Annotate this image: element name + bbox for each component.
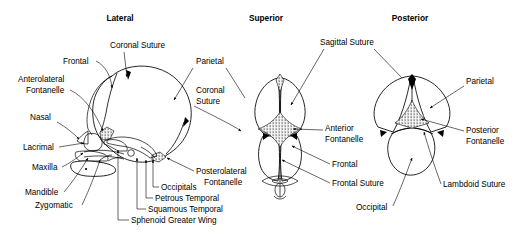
label-frontal-superior: Frontal bbox=[332, 160, 358, 169]
label-anterior-fontanelle-line1: Anterior bbox=[325, 124, 354, 133]
label-coronal-suture-2-line1: Coronal bbox=[196, 86, 225, 95]
label-nasal: Nasal bbox=[30, 113, 51, 122]
label-lambdoid-suture: Lambdoid Suture bbox=[443, 180, 506, 189]
label-squamous-temporal: Squamous Temporal bbox=[148, 205, 223, 214]
label-posterior-fontanelle-line2: Fontanelle bbox=[466, 137, 505, 146]
skull-views-diagram: Lateral Superior Posterior bbox=[0, 0, 520, 237]
label-occipital: Occipital bbox=[356, 203, 388, 212]
label-zygomatic: Zygomatic bbox=[35, 201, 73, 210]
label-coronal-suture-2-line2: Suture bbox=[196, 97, 221, 106]
lateral-skull-drawing bbox=[71, 66, 192, 176]
panel-title-posterior: Posterior bbox=[392, 13, 429, 23]
label-posterolateral-fontanelle-line2: Fontanelle bbox=[204, 178, 243, 187]
label-lacrimal: Lacrimal bbox=[23, 143, 54, 152]
label-parietal-posterior: Parietal bbox=[466, 77, 494, 86]
label-anterior-fontanelle-line2: Fontanelle bbox=[325, 135, 364, 144]
label-petrous-temporal: Petrous Temporal bbox=[155, 194, 219, 203]
label-posterolateral-fontanelle-line1: Posterolateral bbox=[196, 167, 247, 176]
label-frontal-suture: Frontal Suture bbox=[332, 179, 384, 188]
figure-canvas: Lateral Superior Posterior bbox=[0, 0, 520, 237]
label-maxilla: Maxilla bbox=[32, 163, 58, 172]
superior-skull-drawing bbox=[255, 74, 305, 199]
label-sagittal-suture: Sagittal Suture bbox=[320, 38, 374, 47]
label-frontal: Frontal bbox=[63, 57, 89, 66]
posterior-skull-drawing bbox=[374, 74, 450, 175]
label-mandible: Mandible bbox=[25, 188, 59, 197]
label-anterolateral-fontanelle-line1: Anterolateral bbox=[18, 75, 65, 84]
panel-title-superior: Superior bbox=[249, 13, 284, 23]
label-sphenoid-greater-wing: Sphenoid Greater Wing bbox=[131, 216, 217, 225]
label-occipitals: Occipitals bbox=[161, 183, 197, 192]
label-posterior-fontanelle-line1: Posterior bbox=[466, 126, 499, 135]
label-anterolateral-fontanelle-line2: Fontanelle bbox=[26, 86, 65, 95]
label-parietal-lateral: Parietal bbox=[196, 57, 224, 66]
label-coronal-suture: Coronal Suture bbox=[110, 41, 166, 50]
panel-title-lateral: Lateral bbox=[106, 13, 133, 23]
